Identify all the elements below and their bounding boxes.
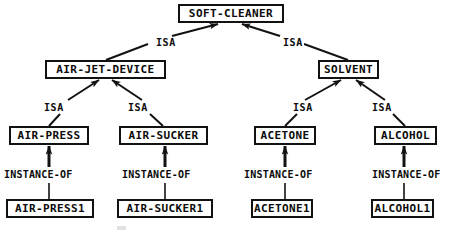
node-air-jet-device[interactable]: AIR-JET-DEVICE bbox=[45, 60, 166, 79]
node-label: AIR-JET-DEVICE bbox=[56, 63, 154, 76]
node-label: ALCOHOL1 bbox=[374, 202, 430, 215]
node-label: AIR-SUCKER1 bbox=[126, 202, 203, 215]
node-acetone[interactable]: ACETONE bbox=[254, 126, 316, 145]
scan-artifact bbox=[117, 226, 126, 230]
node-air-sucker1[interactable]: AIR-SUCKER1 bbox=[117, 199, 213, 218]
node-label: ACETONE bbox=[260, 129, 309, 142]
connector-layer bbox=[0, 0, 460, 231]
node-label: AIR-SUCKER bbox=[128, 129, 198, 142]
edge-label-instance-of-alcohol1: INSTANCE-OF bbox=[371, 170, 441, 180]
node-acetone1[interactable]: ACETONE1 bbox=[251, 199, 313, 218]
edge-label-instance-of-air-sucker1: INSTANCE-OF bbox=[121, 170, 191, 180]
node-solvent[interactable]: SOLVENT bbox=[318, 60, 379, 79]
node-label: SOFT-CLEANER bbox=[189, 7, 273, 20]
node-air-sucker[interactable]: AIR-SUCKER bbox=[119, 126, 208, 145]
node-label: AIR-PRESS1 bbox=[15, 202, 85, 215]
diagram-canvas: SOFT-CLEANER AIR-JET-DEVICE SOLVENT AIR-… bbox=[0, 0, 460, 231]
node-alcohol1[interactable]: ALCOHOL1 bbox=[371, 199, 434, 218]
edge-label-isa-alcohol: ISA bbox=[371, 103, 393, 113]
node-label: SOLVENT bbox=[324, 63, 373, 76]
node-label: ACETONE1 bbox=[254, 202, 310, 215]
node-air-press1[interactable]: AIR-PRESS1 bbox=[6, 199, 94, 218]
edge-label-isa-air-jet-device: ISA bbox=[155, 38, 177, 48]
edge-label-isa-air-press: ISA bbox=[43, 103, 65, 113]
edge-label-isa-acetone: ISA bbox=[292, 103, 314, 113]
node-air-press[interactable]: AIR-PRESS bbox=[9, 126, 89, 145]
edge-label-instance-of-acetone1: INSTANCE-OF bbox=[243, 170, 313, 180]
edge-label-instance-of-air-press1: INSTANCE-OF bbox=[3, 170, 73, 180]
node-soft-cleaner[interactable]: SOFT-CLEANER bbox=[178, 4, 284, 23]
node-label: AIR-PRESS bbox=[17, 129, 80, 142]
edge-label-isa-solvent: ISA bbox=[282, 38, 304, 48]
edge-label-isa-air-sucker: ISA bbox=[127, 103, 149, 113]
node-alcohol[interactable]: ALCOHOL bbox=[374, 126, 437, 145]
node-label: ALCOHOL bbox=[381, 129, 430, 142]
